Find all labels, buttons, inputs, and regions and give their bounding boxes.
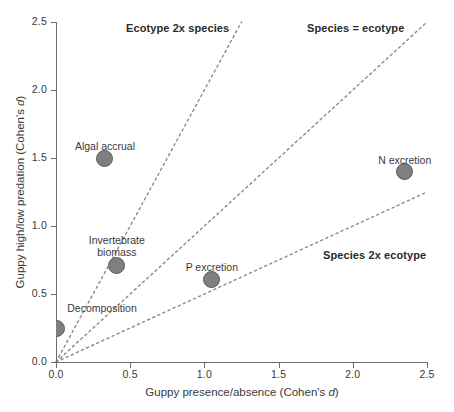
data-point-invertebrate-biomass[interactable] <box>108 257 125 274</box>
x-axis-line <box>56 362 428 363</box>
data-point-clip-decomposition <box>56 320 65 337</box>
scatter-plot-figure: 0.00.51.01.52.02.50.00.51.01.52.02.5 Alg… <box>0 0 454 412</box>
x-tick-label-wrap: 2.5 <box>407 368 447 380</box>
data-point-algal-accrual[interactable] <box>96 150 113 167</box>
y-axis-title: Guppy high/low predation (Cohen's d) <box>14 22 26 362</box>
x-tick-label-wrap: 0.5 <box>110 368 150 380</box>
data-point-n-excretion[interactable] <box>396 163 413 180</box>
data-point-p-excretion[interactable] <box>203 271 220 288</box>
data-point-label-algal-accrual: Algal accrual <box>35 140 175 152</box>
x-tick-label-1.5: 1.5 <box>259 368 299 380</box>
data-point-label-n-excretion: N excretion <box>335 154 454 166</box>
y-tick-0.5 <box>51 294 56 295</box>
reference-lines-group <box>0 0 454 412</box>
data-point-label-decomposition: Decomposition <box>32 302 172 314</box>
x-tick-label-wrap: 1.5 <box>259 368 299 380</box>
x-axis-title: Guppy presence/absence (Cohen's d) <box>56 386 428 398</box>
x-tick-label-0.5: 0.5 <box>110 368 150 380</box>
x-tick-label-1.0: 1.0 <box>184 368 224 380</box>
annotation-species-2x-ecotype: Species 2x ecotype <box>323 249 426 261</box>
y-tick-1.0 <box>51 226 56 227</box>
data-point-decomposition[interactable] <box>56 320 65 337</box>
reference-line-species-2x-ecotype <box>56 192 427 362</box>
x-tick-label-wrap: 0.0 <box>36 368 76 380</box>
data-point-label-p-excretion: P excretion <box>142 261 282 273</box>
x-tick-label-wrap: 1.0 <box>184 368 224 380</box>
annotation-species-ecotype: Species = ecotype <box>307 22 404 34</box>
y-tick-2.0 <box>51 90 56 91</box>
x-tick-label-2.0: 2.0 <box>333 368 373 380</box>
annotation-ecotype-2x-species: Ecotype 2x species <box>126 22 229 34</box>
data-point-label-invertebrate-biomass: Invertebratebiomass <box>47 234 187 258</box>
x-tick-label-wrap: 2.0 <box>333 368 373 380</box>
x-tick-label-2.5: 2.5 <box>407 368 447 380</box>
y-tick-1.5 <box>51 158 56 159</box>
x-tick-label-0.0: 0.0 <box>36 368 76 380</box>
y-tick-2.5 <box>51 22 56 23</box>
